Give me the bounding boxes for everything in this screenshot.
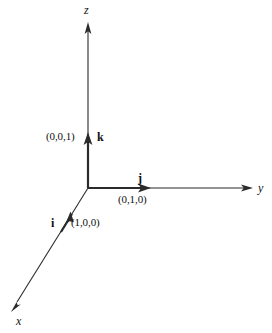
axes-drawing — [0, 0, 272, 333]
coordinate-axes-figure: z y x k j i (0,0,1) (0,1,0) (1,0,0) — [0, 0, 272, 333]
k-unit-vector — [84, 132, 93, 188]
k-vector-coordinate-label: (0,0,1) — [46, 131, 75, 142]
x-axis-line — [17, 188, 88, 302]
y-axis-label: y — [258, 182, 263, 194]
i-vector-symbol: i — [51, 217, 54, 229]
z-axis-label: z — [84, 4, 89, 16]
x-axis-arrowhead — [11, 302, 21, 312]
j-vector-coordinate-label: (0,1,0) — [118, 194, 147, 205]
x-axis-line-group — [11, 188, 88, 312]
i-vector-coordinate-label: (1,0,0) — [71, 217, 100, 228]
x-axis-label: x — [16, 315, 21, 327]
k-vector-symbol: k — [97, 131, 104, 143]
j-vector-symbol: j — [138, 172, 142, 184]
